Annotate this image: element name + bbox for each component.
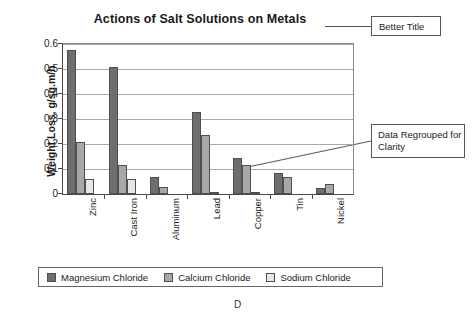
annotation-better-title: Better Title [371,16,441,36]
bar [192,112,201,195]
annotation-data-regrouped: Data Regrouped for Clarity [371,124,465,158]
bar [118,165,127,194]
leader-line-title [325,26,371,27]
annotation-better-title-text: Better Title [379,21,424,32]
y-axis: Weight Loss, g/sq.m/h 00.10.20.30.40.50.… [28,43,58,193]
bar [210,192,219,195]
bar [159,187,168,195]
page-title: Actions of Salt Solutions on Metals [60,12,340,26]
y-axis-tick-label: 0.2 [32,138,58,149]
x-axis-tick-mark [146,194,147,199]
bar [127,179,136,194]
gridline [63,94,353,95]
legend-swatch-magnesium-chloride [47,273,56,282]
y-axis-tick-label: 0.4 [32,88,58,99]
figure-label: D [0,299,475,310]
annotation-data-regrouped-text: Data Regrouped for Clarity [378,129,461,152]
legend-label-magnesium-chloride: Magnesium Chloride [61,272,148,283]
y-axis-tick-label: 0.1 [32,163,58,174]
y-axis-tick-label: 0.6 [32,38,58,49]
bar [76,142,85,195]
x-axis-category-label: Tin [294,198,305,211]
gridline [63,44,353,45]
y-axis-tick-label: 0 [32,188,58,199]
bar [251,192,260,195]
bar [67,50,76,194]
legend-label-calcium-chloride: Calcium Chloride [178,272,250,283]
legend-swatch-calcium-chloride [164,273,173,282]
x-axis-tick-mark [312,194,313,199]
x-axis-category-label: Aluminum [170,198,181,240]
x-axis-tick-mark [270,194,271,199]
legend-label-sodium-chloride: Sodium Chloride [280,272,350,283]
bar [201,135,210,194]
x-axis-tick-mark [104,194,105,199]
bar [274,173,283,194]
y-axis-tick-label: 0.3 [32,113,58,124]
x-axis-tick-mark [187,194,188,199]
x-axis-category-label: Nickel [335,198,346,224]
gridline [63,69,353,70]
x-axis-tick-mark [229,194,230,199]
legend-item-calcium-chloride: Calcium Chloride [164,272,250,283]
legend-swatch-sodium-chloride [266,273,275,282]
y-axis-tick-label: 0.5 [32,63,58,74]
legend-item-magnesium-chloride: Magnesium Chloride [47,272,148,283]
x-axis-category-label: Lead [211,198,222,219]
legend: Magnesium Chloride Calcium Chloride Sodi… [38,267,383,287]
bar [325,184,334,194]
x-axis-category-label: Zinc [87,198,98,216]
bar [109,67,118,195]
bar [242,165,251,194]
bar [316,188,325,194]
x-axis-category-label: Copper [252,198,263,229]
x-axis-category-label: Cast Iron [128,198,139,237]
gridline [63,119,353,120]
bar [150,177,159,195]
bar [85,179,94,194]
bar [233,158,242,194]
plot-area [62,43,354,195]
bar [283,177,292,195]
legend-item-sodium-chloride: Sodium Chloride [266,272,350,283]
